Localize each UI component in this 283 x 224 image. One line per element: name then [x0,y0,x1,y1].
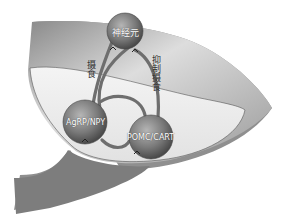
diagram-graphics [0,0,283,224]
diagram-canvas: 神经元 AgRP/NPY POMC/CART 摄食 抑制摄食 [0,0,283,224]
neuron-pomc-cart-label: POMC/CART [127,133,174,142]
edge-label-feeding: 摄食 [86,60,96,78]
edge-label-inhibit-feeding: 抑制摄食 [151,55,161,91]
neuron-top-label: 神经元 [112,26,139,39]
neuron-agrp-npy-label: AgRP/NPY [66,118,105,127]
